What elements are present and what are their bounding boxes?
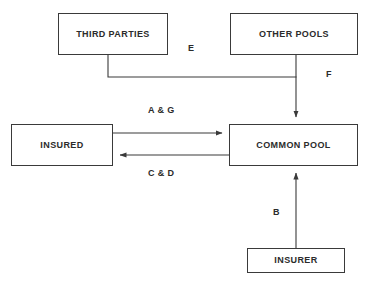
node-common-pool[interactable]: COMMON POOL <box>229 124 358 166</box>
node-insurer-label: INSURER <box>274 256 317 265</box>
edge-label-a-g: A & G <box>148 106 175 115</box>
edge-label-c-d: C & D <box>148 169 175 178</box>
node-common-pool-label: COMMON POOL <box>256 141 330 150</box>
node-insured[interactable]: INSURED <box>11 124 113 166</box>
edge-label-b: B <box>273 208 280 217</box>
edge-label-e: E <box>188 44 194 53</box>
edge-label-f: F <box>326 70 332 79</box>
node-insured-label: INSURED <box>40 141 83 150</box>
node-other-pools-label: OTHER POOLS <box>259 30 329 39</box>
flow-diagram-canvas: THIRD PARTIES OTHER POOLS INSURED COMMON… <box>0 0 366 281</box>
node-third-parties-label: THIRD PARTIES <box>76 30 150 39</box>
node-insurer[interactable]: INSURER <box>247 248 345 273</box>
connector-e <box>108 55 296 77</box>
node-other-pools[interactable]: OTHER POOLS <box>230 13 358 55</box>
node-third-parties[interactable]: THIRD PARTIES <box>58 13 168 55</box>
